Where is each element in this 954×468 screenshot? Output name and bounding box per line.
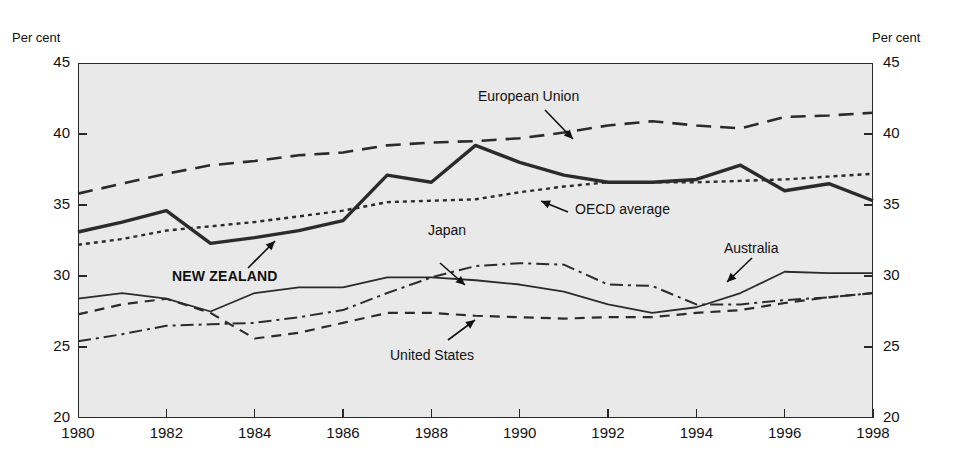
annotation-japan: Japan: [428, 222, 466, 238]
annotation-australia: Australia: [724, 240, 778, 256]
chart-container: Per cent Per cent 2020252530303535404045…: [0, 0, 954, 468]
annotation-united-states: United States: [390, 347, 474, 363]
annotation-new-zealand: NEW ZEALAND: [172, 268, 278, 284]
annotation-oecd-average: OECD average: [575, 201, 670, 217]
annotation-arrow-head: [465, 320, 475, 329]
series-line-united-states: [78, 293, 873, 338]
series-layer: [0, 0, 954, 468]
annotation-european-union: European Union: [478, 88, 579, 104]
